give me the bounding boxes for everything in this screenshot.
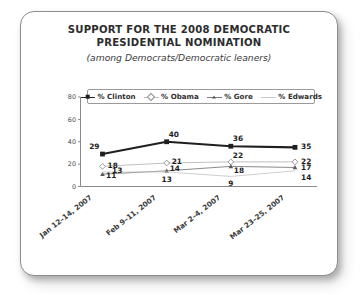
data-point-marker	[100, 152, 105, 157]
data-point-label: 35	[301, 142, 311, 151]
data-point-label: 11	[106, 171, 116, 180]
data-point-label: 40	[169, 130, 179, 139]
data-point-marker	[229, 164, 234, 168]
legend-marker-clinton-square-icon	[80, 92, 95, 101]
data-point-label: 14	[170, 164, 180, 173]
data-point-label: 13	[112, 166, 122, 175]
data-point-marker	[100, 172, 105, 176]
x-tick-label-layer: Jan 12–14, 2007Feb 9–11, 2007Mar 2–4, 20…	[37, 193, 286, 241]
chart-title-line-2: PRESIDENTIAL NOMINATION	[21, 36, 337, 49]
x-tick-label: Mar 23–25, 2007	[228, 193, 286, 241]
chart-card: SUPPORT FOR THE 2008 DEMOCRATIC PRESIDEN…	[20, 11, 338, 276]
data-point-label: 18	[234, 166, 244, 175]
legend-item-obama[interactable]: % Obama	[144, 92, 199, 101]
y-tick-label: 0	[72, 183, 76, 191]
series-layer	[100, 139, 298, 176]
data-point-label: 9	[228, 179, 233, 188]
data-label-layer: 2940363518212222111418171313914	[89, 130, 311, 189]
data-point-label: 29	[89, 142, 99, 151]
legend-item-gore[interactable]: % Gore	[207, 92, 253, 101]
x-tick-label: Mar 2–4, 2007	[172, 193, 222, 235]
y-axis: 020406080	[68, 93, 81, 191]
legend-marker-gore-triangle-icon	[207, 92, 222, 101]
legend-label-edwards: % Edwards	[278, 92, 322, 101]
y-tick-label: 40	[68, 138, 76, 146]
data-point-marker	[292, 159, 298, 165]
data-point-label: 18	[108, 161, 118, 170]
data-point-label: 22	[301, 157, 311, 166]
data-point-label: 36	[233, 134, 243, 143]
legend-item-clinton[interactable]: % Clinton	[80, 92, 136, 101]
data-point-marker	[228, 159, 234, 165]
data-point-label: 22	[233, 151, 243, 160]
data-point-marker	[164, 139, 169, 144]
legend-item-edwards[interactable]: % Edwards	[261, 92, 322, 101]
data-point-label: 14	[301, 173, 311, 182]
y-tick-label: 20	[68, 160, 76, 168]
data-point-label: 21	[172, 157, 182, 166]
legend-marker-edwards-line-icon	[261, 92, 276, 101]
data-point-marker	[164, 168, 169, 172]
chart-title-line-1: SUPPORT FOR THE 2008 DEMOCRATIC	[21, 23, 337, 36]
data-point-marker	[293, 145, 298, 150]
legend-label-obama: % Obama	[161, 92, 199, 101]
data-point-marker	[228, 144, 233, 149]
legend-label-gore: % Gore	[224, 92, 253, 101]
data-point-label: 17	[301, 163, 311, 172]
chart-title-block: SUPPORT FOR THE 2008 DEMOCRATIC PRESIDEN…	[21, 23, 337, 63]
data-point-label: 13	[162, 175, 172, 184]
x-tick-label: Jan 12–14, 2007	[37, 193, 94, 240]
y-tick-label: 60	[68, 116, 76, 124]
data-point-marker	[100, 163, 106, 169]
chart-legend: % Clinton % Obama % Gore % Edwards	[87, 89, 315, 104]
data-point-marker	[164, 160, 170, 166]
chart-subtitle: (among Democrats/Democratic leaners)	[21, 52, 337, 63]
data-point-marker	[293, 165, 298, 169]
y-tick-label: 80	[68, 93, 76, 101]
x-tick-label: Feb 9–11, 2007	[104, 193, 158, 238]
legend-marker-obama-diamond-icon	[144, 92, 159, 101]
legend-label-clinton: % Clinton	[98, 92, 136, 101]
